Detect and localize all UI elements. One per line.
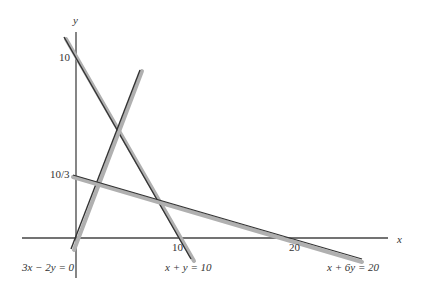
label-x-plus-y-eq-10: x + y = 10 bbox=[165, 262, 212, 273]
y-tick-10-3: 10/3 bbox=[50, 169, 70, 180]
linear-constraints-diagram: y x 10 10/3 10 20 3x − 2y = 0 x + y = 10… bbox=[0, 0, 440, 291]
plot-canvas bbox=[0, 0, 440, 291]
x-tick-20: 20 bbox=[289, 242, 300, 253]
line-3x-minus-2y-eq-0 bbox=[71, 70, 142, 250]
y-axis-label: y bbox=[73, 15, 78, 26]
line-x-plus-6y-eq-20 bbox=[73, 175, 362, 262]
label-x-plus-6y-eq-20: x + 6y = 20 bbox=[327, 262, 379, 273]
x-tick-10: 10 bbox=[172, 242, 183, 253]
label-3x-minus-2y-eq-0: 3x − 2y = 0 bbox=[22, 262, 74, 273]
x-axis-label: x bbox=[397, 234, 402, 245]
y-tick-10: 10 bbox=[59, 52, 70, 63]
